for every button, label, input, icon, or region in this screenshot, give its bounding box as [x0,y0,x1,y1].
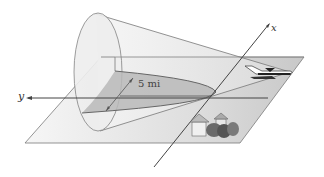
y-axis-label: y [18,90,24,103]
distance-label: 5 mi [138,78,160,89]
trees-icon [206,122,239,138]
x-axis-label: x [271,22,277,33]
